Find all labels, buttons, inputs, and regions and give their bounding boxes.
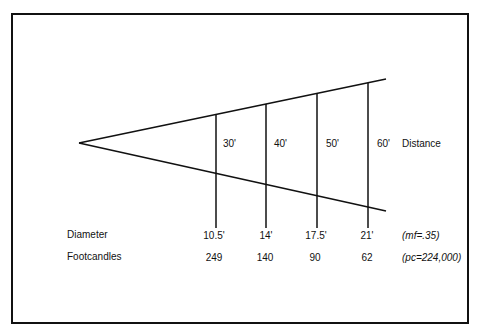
footcandles-value-40: 140: [257, 252, 274, 263]
footcandles-value-30: 249: [206, 252, 223, 263]
distance-label-40: 40': [274, 138, 287, 149]
distance-label-30: 30': [223, 138, 236, 149]
distance-label-50: 50': [326, 138, 339, 149]
footcandles-value-60: 62: [361, 252, 372, 263]
diameter-note: (mf=.35): [402, 230, 440, 241]
distance-label-60: 60': [377, 138, 390, 149]
diameter-value-50: 17.5': [305, 230, 326, 241]
beam-upper-edge: [79, 79, 386, 143]
diameter-value-40: 14': [259, 230, 272, 241]
footcandles-row-label: Footcandles: [67, 251, 121, 262]
footcandles-value-50: 90: [309, 252, 320, 263]
diameter-value-60: 21': [360, 230, 373, 241]
footcandles-note: (pc=224,000): [402, 252, 461, 263]
distance-axis-label: Distance: [402, 138, 441, 149]
beam-lower-edge: [79, 143, 386, 211]
diameter-value-30: 10.5': [203, 230, 224, 241]
diameter-row-label: Diameter: [67, 229, 108, 240]
beam-cone-diagram: [0, 0, 479, 327]
